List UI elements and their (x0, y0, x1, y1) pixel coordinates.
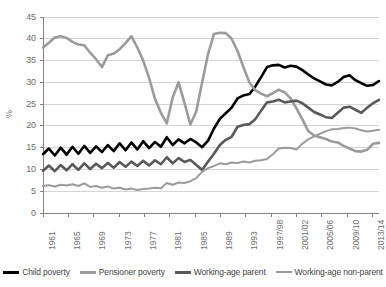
x-tick-label: 1981 (173, 231, 183, 250)
legend-label: Pensioner poverty (99, 267, 165, 277)
x-tick-label: 1993 (249, 231, 259, 250)
x-tick-label: 1977 (148, 231, 158, 250)
x-tick-label: 2005/06 (325, 220, 335, 250)
x-tick-label: 1985 (199, 231, 209, 250)
y-tick-label: 25 (10, 100, 36, 109)
x-tick-label: 1961 (47, 231, 57, 250)
series-line-0 (43, 65, 379, 156)
x-tick-label: 1989 (224, 231, 234, 250)
legend-swatch-icon (276, 271, 292, 273)
legend-swatch-icon (175, 271, 191, 274)
y-tick-label: 15 (10, 143, 36, 152)
legend-label: Child poverty (22, 267, 70, 277)
legend-label: Working-age non-parent (295, 267, 383, 277)
legend-swatch-icon (80, 271, 96, 274)
legend-swatch-icon (3, 271, 19, 274)
y-axis-title: % (4, 110, 14, 118)
x-tick-label: 1969 (97, 231, 107, 250)
y-tick-label: 30 (10, 78, 36, 87)
legend-item-2[interactable]: Working-age parent (175, 267, 266, 277)
x-tick-label: 2013/14 (376, 220, 386, 250)
y-tick-label: 40 (10, 34, 36, 43)
legend-label: Working-age parent (194, 267, 266, 277)
x-tick-label: 1973 (123, 231, 133, 250)
chart-legend: Child povertyPensioner povertyWorking-ag… (0, 262, 386, 282)
legend-item-0[interactable]: Child poverty (3, 267, 70, 277)
y-tick-label: 45 (10, 13, 36, 22)
y-tick-label: 5 (10, 187, 36, 196)
x-tick-label: 2009/10 (351, 220, 361, 250)
data-series-group (43, 33, 379, 190)
x-tick-label: 1965 (72, 231, 82, 250)
y-tick-label: 20 (10, 121, 36, 130)
x-axis-ticks (43, 213, 373, 217)
x-tick-label: 2001/02 (300, 220, 310, 250)
x-tick-label: 1997/98 (275, 220, 285, 250)
y-tick-label: 10 (10, 165, 36, 174)
legend-item-1[interactable]: Pensioner poverty (80, 267, 165, 277)
y-tick-label: 35 (10, 56, 36, 65)
y-tick-label: 0 (10, 209, 36, 218)
chart-figure: 454035302520151050 196119651969197319771… (0, 0, 386, 287)
legend-item-3[interactable]: Working-age non-parent (276, 267, 383, 277)
